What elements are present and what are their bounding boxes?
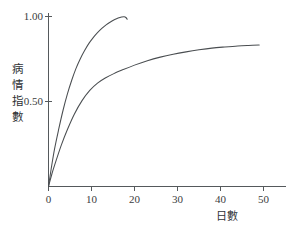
x-tick-label-50: 50 bbox=[258, 193, 270, 205]
x-axis-title: 日數 bbox=[216, 210, 238, 223]
y-axis-title-char-2: 情 bbox=[12, 78, 24, 92]
x-tick-label-0: 0 bbox=[46, 193, 52, 205]
x-tick-label-30: 30 bbox=[172, 193, 184, 205]
y-tick-label-1: 1.00 bbox=[24, 10, 44, 22]
disease-index-line-chart: 1.00 0.50 0 10 20 30 40 50 病 情 指 數 日數 bbox=[0, 0, 293, 233]
series-line-upper-curve bbox=[49, 17, 128, 187]
chart-page: 1.00 0.50 0 10 20 30 40 50 病 情 指 數 日數 bbox=[0, 0, 293, 233]
x-tick-label-40: 40 bbox=[215, 193, 227, 205]
x-tick-label-10: 10 bbox=[86, 193, 98, 205]
y-tick-label-0: 0.50 bbox=[24, 95, 44, 107]
series-line-lower-curve bbox=[49, 45, 260, 186]
axes-group bbox=[48, 13, 286, 187]
y-axis-title-char-4: 數 bbox=[12, 110, 24, 124]
y-axis-title: 病 情 指 數 bbox=[12, 62, 24, 124]
x-tick-label-20: 20 bbox=[129, 193, 141, 205]
y-axis-title-char-3: 指 bbox=[12, 94, 23, 108]
y-axis-title-char-1: 病 bbox=[12, 62, 24, 76]
